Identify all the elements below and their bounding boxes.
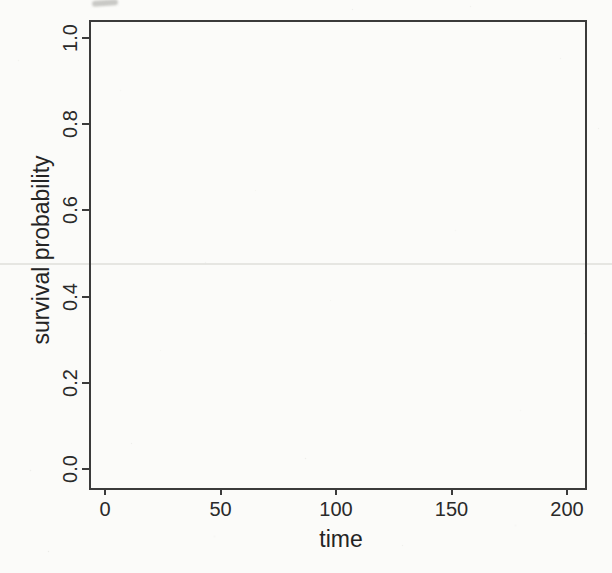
x-axis-tick-label: 50 bbox=[209, 498, 231, 521]
x-axis-tick-label: 0 bbox=[99, 498, 110, 521]
y-axis-tick bbox=[82, 382, 89, 384]
x-axis-tick-label: 150 bbox=[435, 498, 468, 521]
x-axis-tick bbox=[335, 488, 337, 495]
y-axis-tick-label: 0.0 bbox=[59, 455, 82, 483]
scan-artifact-smudge bbox=[92, 0, 118, 7]
scanned-survival-plot: 050100150200 0.00.20.40.60.81.0 time sur… bbox=[0, 0, 612, 573]
y-axis-title: survival probability bbox=[28, 155, 55, 344]
x-axis-tick bbox=[104, 488, 106, 495]
x-axis-title: time bbox=[319, 526, 362, 553]
plot-frame bbox=[89, 20, 587, 490]
y-axis-tick-label: 0.8 bbox=[59, 110, 82, 138]
scan-noise-speckles bbox=[0, 0, 1, 1]
y-axis-tick-label: 0.4 bbox=[59, 283, 82, 311]
x-axis-tick bbox=[566, 488, 568, 495]
x-axis-tick bbox=[451, 488, 453, 495]
y-axis-tick-label: 1.0 bbox=[59, 24, 82, 52]
y-axis-tick bbox=[82, 123, 89, 125]
y-axis-tick-label: 0.2 bbox=[59, 369, 82, 397]
y-axis-tick bbox=[82, 37, 89, 39]
x-axis-tick-label: 100 bbox=[319, 498, 352, 521]
y-axis-tick-label: 0.6 bbox=[59, 196, 82, 224]
y-axis-tick bbox=[82, 296, 89, 298]
y-axis-tick bbox=[82, 468, 89, 470]
x-axis-tick bbox=[220, 488, 222, 495]
x-axis-tick-label: 200 bbox=[550, 498, 583, 521]
y-axis-tick bbox=[82, 209, 89, 211]
